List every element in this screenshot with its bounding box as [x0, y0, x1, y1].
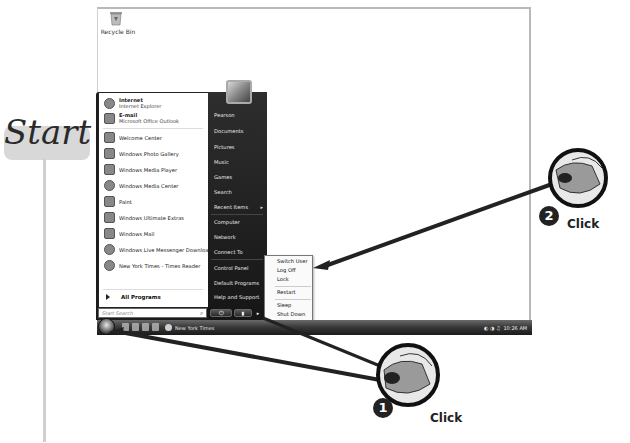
program-label: Windows Live Messenger Download: [119, 247, 212, 253]
program-times-reader[interactable]: New York Times - Times Reader: [99, 260, 207, 271]
pinned-subtitle: Internet Explorer: [119, 103, 161, 109]
taskbar: [97, 320, 532, 335]
menu-item-lock[interactable]: Lock: [277, 276, 289, 282]
search-placeholder: Start Search: [102, 310, 133, 316]
start-right-help-support[interactable]: Help and Support: [214, 294, 259, 300]
start-menu-right-pane: Pearson Documents Pictures Music Games S…: [207, 92, 267, 320]
times-reader-icon: [165, 324, 172, 331]
pinned-internet[interactable]: InternetInternet Explorer: [99, 97, 207, 109]
start-right-default-programs[interactable]: Default Programs: [214, 280, 259, 286]
start-right-search[interactable]: Search: [214, 189, 232, 195]
program-label: Windows Mail: [119, 231, 154, 237]
pinned-subtitle: Microsoft Office Outlook: [119, 118, 179, 124]
recycle-bin-icon: [109, 10, 123, 26]
internet-explorer-quicklaunch-icon[interactable]: [142, 323, 149, 331]
start-search-input[interactable]: Start Search ⌕: [98, 308, 207, 318]
step-2-label: Click: [567, 217, 599, 231]
recycle-bin-label: Recycle Bin: [96, 28, 140, 35]
program-paint[interactable]: Paint: [99, 196, 207, 207]
menu-item-switch-user[interactable]: Switch User: [277, 258, 308, 264]
power-button[interactable]: ⏻: [210, 309, 232, 317]
divider: [211, 214, 263, 215]
program-media-center[interactable]: Windows Media Center: [99, 180, 207, 191]
start-heading: Start: [4, 112, 94, 152]
welcome-center-icon: [104, 132, 115, 143]
divider: [275, 299, 311, 300]
outlook-icon: [104, 113, 115, 124]
program-label: Windows Photo Gallery: [119, 151, 179, 157]
step-1-label: Click: [430, 411, 462, 425]
program-label: Windows Media Player: [119, 167, 177, 173]
program-messenger-download[interactable]: Windows Live Messenger Download: [99, 244, 207, 255]
taskbar-button-times[interactable]: New York Times: [165, 322, 215, 333]
start-right-computer[interactable]: Computer: [214, 219, 240, 225]
mail-icon: [104, 228, 115, 239]
program-label: New York Times - Times Reader: [119, 263, 200, 269]
submenu-arrow-icon: ▸: [260, 204, 263, 210]
start-right-control-panel[interactable]: Control Panel: [214, 265, 248, 271]
start-right-games[interactable]: Games: [214, 174, 232, 180]
pinned-email[interactable]: E-mailMicrosoft Office Outlook: [99, 112, 207, 124]
menu-item-log-off[interactable]: Log Off: [277, 267, 296, 273]
program-media-player[interactable]: Windows Media Player: [99, 164, 207, 175]
start-right-network[interactable]: Network: [214, 234, 236, 240]
lock-button[interactable]: ▮: [234, 309, 252, 317]
program-label: Windows Media Center: [119, 183, 179, 189]
start-menu-left-pane: InternetInternet Explorer E-mailMicrosof…: [98, 92, 208, 308]
switch-windows-icon[interactable]: [132, 323, 139, 331]
ultimate-extras-icon: [104, 212, 115, 223]
step-1-badge: 1: [373, 398, 393, 418]
menu-item-sleep[interactable]: Sleep: [277, 302, 291, 308]
step-2-badge: 2: [539, 206, 559, 226]
paint-icon: [104, 196, 115, 207]
menu-item-restart[interactable]: Restart: [277, 289, 296, 295]
start-right-connect-to[interactable]: Connect To: [214, 249, 243, 255]
program-photo-gallery[interactable]: Windows Photo Gallery: [99, 148, 207, 159]
start-right-music[interactable]: Music: [214, 159, 229, 165]
start-button[interactable]: [98, 318, 115, 335]
program-label: Welcome Center: [119, 135, 162, 141]
times-reader-icon: [104, 260, 115, 271]
start-right-recent-items[interactable]: Recent Items: [214, 204, 248, 210]
start-guide-line: [43, 158, 46, 442]
program-label: Paint: [119, 199, 132, 205]
taskbar-button-label: New York Times: [175, 325, 214, 331]
media-center-icon: [104, 180, 115, 191]
media-player-icon: [104, 164, 115, 175]
show-desktop-icon[interactable]: [122, 323, 129, 331]
power-buttons: ⏻ ▮ ▸: [207, 308, 267, 318]
messenger-icon: [104, 244, 115, 255]
program-welcome-center[interactable]: Welcome Center: [99, 132, 207, 143]
divider: [211, 259, 263, 260]
user-account-picture[interactable]: [226, 80, 252, 104]
all-programs-button[interactable]: All Programs: [99, 291, 207, 303]
all-programs-label: All Programs: [121, 294, 161, 300]
start-right-documents[interactable]: Documents: [214, 128, 244, 134]
system-tray: ◐ ◑ ♫ 10:26 AM: [484, 322, 527, 333]
tray-icons[interactable]: ◐ ◑ ♫: [484, 325, 500, 331]
shutdown-options-button[interactable]: ▸: [254, 309, 262, 317]
internet-explorer-icon: [104, 98, 115, 109]
program-windows-mail[interactable]: Windows Mail: [99, 228, 207, 239]
photo-gallery-icon: [104, 148, 115, 159]
program-ultimate-extras[interactable]: Windows Ultimate Extras: [99, 212, 207, 223]
shutdown-options-menu: Switch User Log Off Lock Restart Sleep S…: [264, 255, 313, 321]
clock[interactable]: 10:26 AM: [503, 325, 527, 331]
divider: [103, 128, 203, 129]
menu-item-shut-down[interactable]: Shut Down: [277, 311, 305, 317]
start-right-pictures[interactable]: Pictures: [214, 144, 235, 150]
start-right-pearson[interactable]: Pearson: [214, 112, 235, 118]
arrow-right-icon: [106, 294, 110, 300]
divider: [275, 286, 311, 287]
divider: [103, 289, 203, 290]
search-icon: ⌕: [200, 309, 203, 317]
media-quicklaunch-icon[interactable]: [152, 323, 159, 331]
program-label: Windows Ultimate Extras: [119, 215, 184, 221]
